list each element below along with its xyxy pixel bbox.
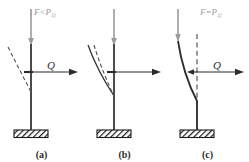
axial-load-arrow-a <box>28 9 34 46</box>
column-c <box>178 41 197 131</box>
panel-caption-b: (b) <box>83 149 166 160</box>
lateral-load-label-a: Q <box>47 60 55 71</box>
panel-caption-a: (a) <box>0 149 83 160</box>
panel-b: F=P1j Q (b) <box>83 0 166 162</box>
buckling-states-figure: F<P1j Q (a) <box>0 0 249 162</box>
panel-caption-c: (c) <box>166 149 249 160</box>
lateral-load-arrow-c <box>197 69 244 75</box>
axial-load-arrow-c <box>175 9 181 42</box>
axial-load-arrow-b <box>111 9 117 46</box>
panel-a-drawing <box>0 0 83 145</box>
lateral-load-arrow-b <box>114 69 161 75</box>
fixed-base-a <box>14 130 48 138</box>
panel-b-drawing <box>83 0 166 145</box>
fixed-base-b <box>97 130 131 138</box>
dashed-perturbed-curve-a <box>8 47 31 92</box>
panel-c-drawing <box>166 0 249 145</box>
panel-a: F<P1j Q (a) <box>0 0 83 162</box>
dashed-deflected-curve-b <box>94 45 114 96</box>
deflection-tick-c <box>187 69 197 74</box>
fixed-base-c <box>180 130 214 138</box>
force-label-a: F<P1j <box>34 8 56 17</box>
panel-c: F>P1j Q (c) <box>166 0 249 162</box>
